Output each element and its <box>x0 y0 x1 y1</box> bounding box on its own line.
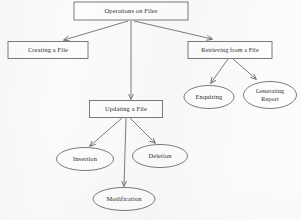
node-label-deletion: Deletion <box>148 152 172 159</box>
node-modification[interactable]: Modification <box>93 188 155 211</box>
edge-updating-to-insertion <box>90 118 122 146</box>
node-generating-report[interactable]: Generating Report <box>244 82 297 109</box>
node-deletion[interactable]: Deletion <box>133 145 188 168</box>
node-label-operations-on-files: Operations on Files <box>105 7 158 14</box>
diagram-canvas: Operations on Files Creating a File Retr… <box>0 0 301 220</box>
node-label-generating-report-line2: Report <box>261 96 279 102</box>
node-label-retrieving-from-a-file: Retrieving from a File <box>201 47 259 53</box>
node-label-insertion: Insertion <box>73 155 98 162</box>
edge-updating-to-modification <box>124 118 126 186</box>
node-label-enquiring: Enquiring <box>196 93 224 100</box>
edge-updating-to-deletion <box>130 118 155 143</box>
node-label-generating-report-line1: Generating <box>256 88 285 94</box>
node-creating-a-file[interactable]: Creating a File <box>8 42 88 59</box>
edge-retrieving-to-generating <box>233 59 256 79</box>
node-label-updating-a-file: Updating a File <box>105 105 147 112</box>
edge-root-to-creating <box>64 21 128 40</box>
node-updating-a-file[interactable]: Updating a File <box>90 101 163 118</box>
node-insertion[interactable]: Insertion <box>57 148 114 171</box>
node-label-modification: Modification <box>106 195 142 202</box>
edge-retrieving-to-enquiring <box>211 59 228 83</box>
node-enquiring[interactable]: Enquiring <box>184 86 234 109</box>
edge-root-to-retrieving <box>134 21 212 39</box>
node-layer: Operations on Files Creating a File Retr… <box>8 2 297 211</box>
node-retrieving-from-a-file[interactable]: Retrieving from a File <box>188 42 272 59</box>
node-label-creating-a-file: Creating a File <box>28 46 68 53</box>
node-operations-on-files[interactable]: Operations on Files <box>74 2 188 20</box>
operations-on-files-flowchart: Operations on Files Creating a File Retr… <box>0 0 301 220</box>
